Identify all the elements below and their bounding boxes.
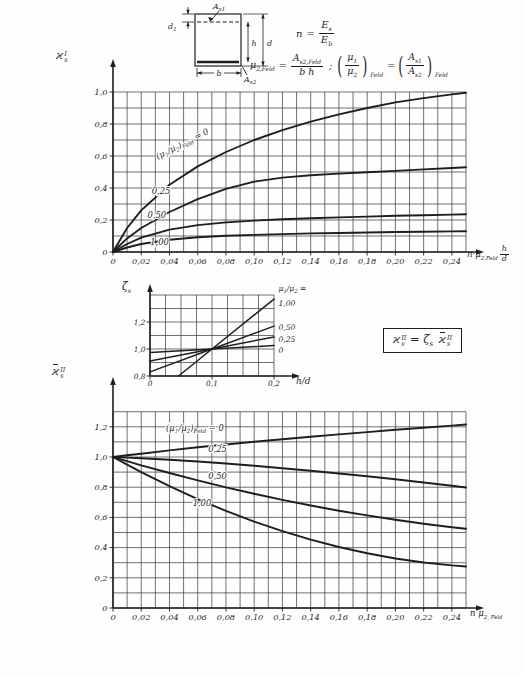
bottom-x-tick-0,12: 0,12 <box>273 612 291 622</box>
top-x-tick-0,22: 0,22 <box>415 256 433 266</box>
bottom-y-tick-0,2: 0,2 <box>94 573 107 583</box>
bottom-x-tick-0,10: 0,10 <box>245 612 263 622</box>
curve-1,00 <box>179 299 275 376</box>
top-x-tick-0,24: 0,24 <box>443 256 461 266</box>
bottom-chart-y-title: ϰIIs <box>52 364 65 380</box>
top-y-axis-arrow <box>110 59 116 67</box>
top-x-tick-0: 0 <box>110 256 115 266</box>
inset-axes <box>150 290 294 376</box>
bottom-grid <box>113 412 466 608</box>
d1-extension-lines <box>182 14 194 22</box>
top-grid <box>113 92 466 252</box>
mu-ratio-1-subscript: Feld <box>370 72 383 78</box>
inset-y-tick-0,8: 0,8 <box>134 372 146 381</box>
d-arrow-up <box>261 14 264 18</box>
d1-label: d1 <box>168 22 177 32</box>
top-x-tick-0,18: 0,18 <box>358 256 376 266</box>
bottom-x-tick-0,20: 0,20 <box>386 612 404 622</box>
paren-open-1: ( <box>337 52 342 79</box>
mu-ratio-2-subscript: Feld <box>435 72 448 78</box>
paren-close-1: ) <box>362 52 367 79</box>
as2-leader-line <box>242 65 248 75</box>
d-label: d <box>267 39 272 48</box>
boxed-k2: ϰIIs <box>439 332 452 346</box>
mu-ratio-2: As1 As2 <box>406 52 424 78</box>
d1-arrow-down <box>186 10 189 14</box>
bottom-x-tick-0,04: 0,04 <box>160 612 178 622</box>
bottom-y-tick-1,0: 1,0 <box>94 452 107 462</box>
bottom-y-tick-0,6: 0,6 <box>94 512 107 522</box>
bottom-chart-x-title: n μ2, Feld <box>470 608 502 620</box>
top-y-tick-1,0: 1,0 <box>94 87 107 97</box>
inset-chart-x-title: h/d <box>296 376 311 386</box>
inset-grid <box>150 295 274 376</box>
top-chart-x-title: n·μ2,Feld hd <box>467 245 509 264</box>
formula-n-lhs: n <box>296 28 302 39</box>
bottom-y-axis-arrow <box>110 377 116 385</box>
b-arrow-left <box>197 71 202 74</box>
mu-separator: ; <box>329 60 332 71</box>
b-label: b <box>217 69 222 78</box>
h-arrow-up <box>246 22 249 26</box>
bottom-x-tick-0,14: 0,14 <box>302 612 320 622</box>
inset-x-tick-0,2: 0,2 <box>268 379 280 388</box>
top-x-tick-0,16: 0,16 <box>330 256 348 266</box>
inset-x-tick-0,1: 0,1 <box>206 379 218 388</box>
figure-page: 00,020,040,060,080,100,120,140,160,180,2… <box>0 0 525 676</box>
top-chart-y-title: ϰIs <box>56 48 67 64</box>
formula-n-fraction: Es Eb <box>319 20 334 47</box>
inset-chart: 00,10,21,21,00,81,000,500,250μ1/μ2 = <box>134 284 307 388</box>
boxed-k1: ϰIIs <box>393 332 406 346</box>
bottom-x-tick-0,18: 0,18 <box>358 612 376 622</box>
top-x-tick-0,14: 0,14 <box>302 256 320 266</box>
boxed-eq: = <box>410 332 420 346</box>
inset-side-label-0,25: 0,25 <box>279 335 296 344</box>
inset-side-label-0: 0 <box>279 346 284 355</box>
top-x-tick-0,12: 0,12 <box>273 256 291 266</box>
mu-ratio-1: μ1 μ2 <box>345 52 359 78</box>
top-chart: 00,020,040,060,080,100,120,140,160,180,2… <box>94 59 484 266</box>
bottom-curve-label-1,00: 1,00 <box>193 498 212 508</box>
bottom-curve-label-0,50: 0,50 <box>208 471 227 481</box>
d1-arrow-up <box>186 22 189 26</box>
inset-y-axis-arrow <box>147 284 153 292</box>
formula-n: n = Es Eb <box>296 20 334 47</box>
formula-n-eq: = <box>306 28 314 39</box>
bottom-x-tick-0,08: 0,08 <box>217 612 235 622</box>
mu-lhs: μ2,Feld <box>250 59 275 72</box>
curve-(μ1/μ2)Feld = 0 <box>113 93 466 252</box>
formula-mu2feld: μ2,Feld = As2,Feld b h ; ( μ1 μ2 )Feld =… <box>250 52 448 78</box>
top-curve-label-1,00: 1,00 <box>150 237 169 247</box>
top-x-tick-0,04: 0,04 <box>160 256 178 266</box>
b-arrow-right <box>236 71 241 74</box>
top-y-tick-0,8: 0,8 <box>94 119 107 129</box>
bottom-ticks <box>110 427 452 612</box>
bottom-x-tick-0,02: 0,02 <box>132 612 150 622</box>
bottom-x-tick-0: 0 <box>110 612 115 622</box>
bottom-y-tick-0,8: 0,8 <box>94 482 107 492</box>
mu-eq: = <box>279 60 287 71</box>
inset-legend-title: μ1/μ2 = <box>279 284 307 294</box>
mu-fraction: As2,Feld b h <box>291 53 323 77</box>
top-curve-label-0,25: 0,25 <box>152 186 171 196</box>
top-curve-label-(μ1/μ2)Feld = 0: (μ1/μ2)Feld = 0 <box>154 126 211 162</box>
top-x-tick-0,10: 0,10 <box>245 256 263 266</box>
top-y-tick-0,2: 0,2 <box>94 215 107 225</box>
paren-close-2: ) <box>427 52 432 79</box>
inset-y-tick-1,2: 1,2 <box>134 318 146 327</box>
paren-open-2: ( <box>398 52 403 79</box>
bottom-y-tick-0: 0 <box>102 603 107 613</box>
boxed-formula: ϰIIs = ζs ϰIIs <box>383 328 462 353</box>
top-x-tick-0,08: 0,08 <box>217 256 235 266</box>
inset-side-label-0,50: 0,50 <box>279 323 296 332</box>
bottom-y-tick-1,2: 1,2 <box>94 422 107 432</box>
bottom-curve-label-0,25: 0,25 <box>208 444 227 454</box>
top-y-tick-0: 0 <box>102 247 107 257</box>
top-x-tick-0,20: 0,20 <box>386 256 404 266</box>
inset-chart-y-title: ζs <box>122 280 131 295</box>
bottom-x-tick-0,16: 0,16 <box>330 612 348 622</box>
top-y-tick-0,6: 0,6 <box>94 151 107 161</box>
curve-0,50 <box>113 457 466 529</box>
boxed-zeta: ζs <box>423 332 433 346</box>
top-axes <box>113 65 478 252</box>
